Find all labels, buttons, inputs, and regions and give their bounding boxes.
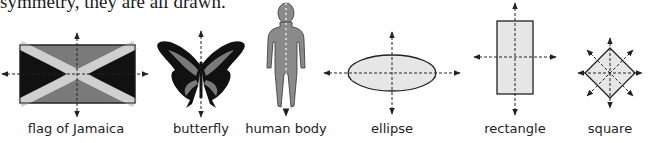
caption-square: square [588, 121, 632, 136]
human-body-figure [267, 0, 305, 116]
caption-rectangle: rectangle [484, 121, 545, 136]
caption-human-body: human body [245, 121, 327, 136]
rectangle-figure [474, 3, 556, 115]
ellipse-figure [324, 32, 460, 114]
caption-ellipse: ellipse [371, 121, 413, 136]
flag-of-jamaica-figure [2, 33, 148, 117]
butterfly-figure [157, 31, 245, 117]
caption-butterfly: butterfly [173, 121, 229, 136]
square-figure [578, 38, 642, 108]
caption-flag-of-jamaica: flag of Jamaica [28, 121, 124, 136]
